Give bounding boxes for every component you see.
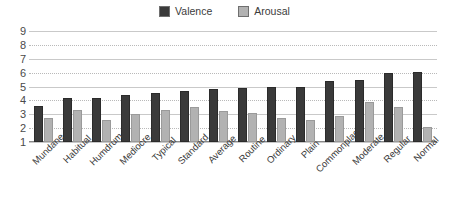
bar-valence	[63, 98, 72, 142]
x-axis-label-cell: Mediocre	[116, 143, 145, 209]
legend-item-valence: Valence	[159, 6, 212, 17]
legend-label-valence: Valence	[175, 6, 212, 17]
bar-valence	[325, 81, 334, 142]
bar-valence	[413, 72, 422, 142]
x-axis-label-cell: Regular	[379, 143, 408, 209]
bar-group	[291, 31, 320, 142]
x-axis-label-cell: Plain	[291, 143, 320, 209]
bar-group	[233, 31, 262, 142]
y-axis-tick-label: 4	[0, 95, 26, 105]
x-axis-label-cell: Mundane	[29, 143, 58, 209]
bar-valence	[267, 87, 276, 143]
x-axis-label-cell: Commonplace	[320, 143, 349, 209]
y-axis-tick-label: 3	[0, 109, 26, 119]
bar-group	[204, 31, 233, 142]
x-axis-label-cell: Standard	[175, 143, 204, 209]
y-axis-tick-label: 9	[0, 26, 26, 36]
bar-valence	[209, 89, 218, 142]
y-axis-tick-label: 8	[0, 40, 26, 50]
x-axis-labels: MundaneHabitualHumdrumMediocreTypicalSta…	[29, 143, 437, 209]
bar-group	[116, 31, 145, 142]
bar-valence	[384, 73, 393, 142]
y-axis: 987654321	[0, 31, 26, 142]
bar-group	[175, 31, 204, 142]
bar-valence	[180, 91, 189, 142]
x-axis-label-cell: Routine	[233, 143, 262, 209]
y-axis-tick-label: 7	[0, 54, 26, 64]
bar-valence	[92, 98, 101, 142]
legend-swatch-valence	[159, 6, 170, 17]
bar-group	[29, 31, 58, 142]
x-axis-label-cell: Ordinary	[262, 143, 291, 209]
legend-item-arousal: Arousal	[238, 6, 290, 17]
y-axis-tick-label: 5	[0, 82, 26, 92]
bar-series-container	[29, 31, 437, 142]
bar-group	[87, 31, 116, 142]
y-axis-tick-label: 2	[0, 123, 26, 133]
bar-group	[320, 31, 349, 142]
bar-group	[408, 31, 437, 142]
bar-chart: Valence Arousal 987654321 MundaneHabitua…	[0, 0, 449, 209]
bar-group	[58, 31, 87, 142]
bar-group	[262, 31, 291, 142]
bar-valence	[34, 106, 43, 142]
x-axis-label-cell: Average	[204, 143, 233, 209]
x-axis-label-cell: Habitual	[58, 143, 87, 209]
chart-legend: Valence Arousal	[0, 6, 449, 17]
x-axis-label-cell: Normal	[408, 143, 437, 209]
x-axis-label-cell: Humdrum	[87, 143, 116, 209]
y-axis-tick-label: 6	[0, 68, 26, 78]
bar-valence	[151, 93, 160, 142]
x-axis-label-cell: Typical	[146, 143, 175, 209]
legend-swatch-arousal	[238, 6, 249, 17]
y-axis-tick-label: 1	[0, 137, 26, 147]
legend-label-arousal: Arousal	[254, 6, 290, 17]
x-axis-label-cell: Moderate	[350, 143, 379, 209]
bar-group	[379, 31, 408, 142]
bar-group	[146, 31, 175, 142]
bar-valence	[296, 87, 305, 143]
bar-valence	[238, 88, 247, 142]
